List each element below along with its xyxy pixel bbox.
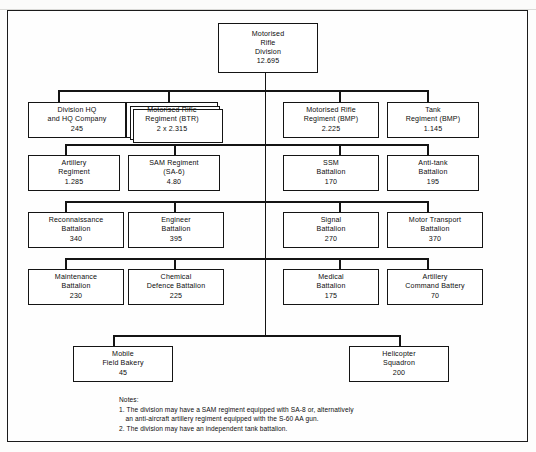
organisation-chart-page: Motorised Rifle Division 12.695 Division… [0, 0, 536, 452]
drop-row3-n3 [339, 201, 341, 212]
node-motorised-rifle-division: Motorised Rifle Division 12.695 [218, 23, 318, 73]
drop-row3-n2 [174, 201, 176, 212]
node-line: Artillery [62, 159, 87, 168]
node-line: Rifle [261, 39, 276, 48]
node-medical-battalion: Medical Battalion 175 [283, 269, 379, 305]
scan-edge-artifact [0, 0, 536, 10]
note-item-2-number: 2. [119, 425, 125, 432]
node-line: Medical [318, 273, 344, 282]
node-line: Motorised Rifle [147, 106, 197, 115]
drop-row1-n3 [339, 90, 341, 102]
node-line: Division HQ [57, 106, 96, 115]
bus-row-1 [58, 90, 427, 92]
node-line: Squadron [383, 359, 415, 368]
node-strength: 230 [70, 292, 82, 301]
node-strength: 225 [170, 292, 182, 301]
node-line: Battalion [162, 225, 191, 234]
note-item-2-line-1: 2. The division may have an independent … [119, 424, 499, 434]
node-helicopter-squadron: Helicopter Squadron 200 [349, 346, 449, 382]
drop-row3-n4 [427, 201, 429, 212]
node-line: Regiment (BMP) [304, 115, 359, 124]
node-line: Mobile [112, 350, 134, 359]
node-strength: 170 [325, 178, 337, 187]
node-strength: 70 [431, 292, 439, 301]
node-line: SAM Regiment [149, 159, 199, 168]
node-line: Battalion [419, 168, 448, 177]
node-engineer-battalion: Engineer Battalion 395 [128, 212, 224, 248]
bus-row-2 [65, 144, 427, 146]
drop-row2-n2 [174, 144, 176, 155]
node-motorised-rifle-regiment-btr: Motorised Rifle Regiment (BTR) 2 x 2.315 [126, 102, 218, 138]
node-artillery-command-battery: Artillery Command Battery 70 [387, 269, 483, 305]
node-ssm-battalion: SSM Battalion 170 [283, 155, 379, 191]
node-strength: 1.285 [65, 178, 84, 187]
node-motorised-rifle-regiment-bmp: Motorised Rifle Regiment (BMP) 2.225 [283, 102, 379, 138]
node-maintenance-battalion: Maintenance Battalion 230 [28, 269, 124, 305]
node-line: Signal [321, 216, 342, 225]
node-line: Maintenance [55, 273, 97, 282]
node-strength: 45 [119, 369, 127, 378]
node-strength: 270 [325, 235, 337, 244]
node-line: Defence Battalion [147, 282, 206, 291]
node-chemical-defence-battalion: Chemical Defence Battalion 225 [128, 269, 224, 305]
drop-row3-n1 [65, 201, 67, 212]
node-line: Anti-tank [418, 159, 447, 168]
notes-heading: Notes: [119, 395, 499, 405]
drop-row2-n1 [65, 144, 67, 155]
note-item-1-line-2: an anti-aircraft artillery regiment equi… [119, 414, 499, 424]
spine-vertical [265, 73, 267, 335]
node-strength: 245 [71, 125, 83, 134]
note-item-2-text: The division may have an independent tan… [127, 425, 288, 432]
node-line: Motorised [252, 30, 285, 39]
node-line: Helicopter [382, 350, 415, 359]
note-item-1-text: The division may have a SAM regiment equ… [127, 406, 354, 413]
node-strength: 2 x 2.315 [157, 125, 188, 134]
node-line: Motor Transport [409, 216, 461, 225]
bus-row-5 [113, 335, 401, 337]
node-line: Regiment (BMP) [406, 115, 461, 124]
drop-row2-n4 [427, 144, 429, 155]
drop-row4-n4 [427, 258, 429, 269]
drop-row5-n1 [113, 335, 115, 346]
node-line: Reconnaissance [49, 216, 104, 225]
drop-row4-n1 [65, 258, 67, 269]
note-item-1-number: 1. [119, 406, 125, 413]
node-artillery-regiment: Artillery Regiment 1.285 [28, 155, 120, 191]
node-line: Battalion [317, 225, 346, 234]
node-line: and HQ Company [48, 115, 107, 124]
node-reconnaissance-battalion: Reconnaissance Battalion 340 [28, 212, 124, 248]
drop-row1-n1 [58, 90, 60, 102]
node-line: Division [255, 48, 281, 57]
node-line: Regiment [58, 168, 90, 177]
note-item-1-line-1: 1. The division may have a SAM regiment … [119, 405, 499, 415]
drop-row1-n2 [168, 90, 170, 102]
node-line: Regiment (BTR) [145, 115, 198, 124]
notes-block: Notes: 1. The division may have a SAM re… [119, 395, 499, 433]
chart-frame: Motorised Rifle Division 12.695 Division… [7, 10, 528, 442]
node-line: Battalion [317, 282, 346, 291]
node-line: (SA-6) [163, 168, 184, 177]
drop-row4-n3 [339, 258, 341, 269]
node-line: Chemical [161, 273, 192, 282]
drop-row2-n3 [339, 144, 341, 155]
node-motor-transport-battalion: Motor Transport Battalion 370 [387, 212, 483, 248]
node-line: Engineer [161, 216, 191, 225]
node-line: Tank [425, 106, 441, 115]
node-strength: 12.695 [257, 57, 280, 66]
drop-row4-n2 [174, 258, 176, 269]
node-anti-tank-battalion: Anti-tank Battalion 195 [387, 155, 479, 191]
drop-row1-n4 [427, 90, 429, 102]
drop-row5-n2 [399, 335, 401, 346]
node-line: Battalion [62, 225, 91, 234]
node-signal-battalion: Signal Battalion 270 [283, 212, 379, 248]
node-line: Battalion [421, 225, 450, 234]
node-line: Battalion [317, 168, 346, 177]
bus-row-3 [65, 201, 427, 203]
node-strength: 4.80 [167, 178, 181, 187]
node-strength: 2.225 [322, 125, 341, 134]
node-line: Battalion [62, 282, 91, 291]
node-line: SSM [323, 159, 339, 168]
node-division-hq-and-hq-company: Division HQ and HQ Company 245 [28, 102, 126, 138]
node-strength: 395 [170, 235, 182, 244]
bus-row-4 [65, 258, 427, 260]
